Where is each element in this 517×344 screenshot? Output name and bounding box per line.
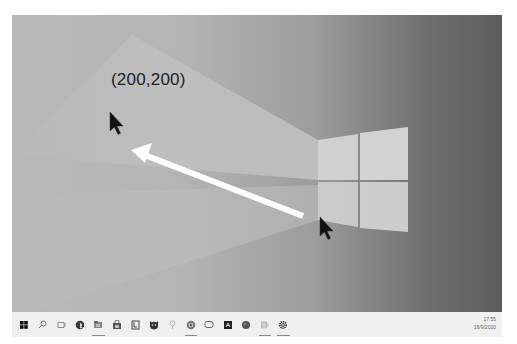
start-button[interactable] — [16, 314, 33, 336]
browser-icon — [186, 320, 196, 330]
search-button[interactable] — [35, 314, 52, 336]
chrome-button[interactable] — [183, 314, 200, 336]
gear-icon — [278, 320, 288, 330]
chat-icon — [204, 320, 214, 329]
file-explorer-button[interactable] — [90, 314, 107, 336]
chat-app-button[interactable] — [201, 314, 218, 336]
notebook-icon — [131, 320, 140, 330]
task-view-icon — [57, 321, 66, 329]
target-coordinate-label: (200,200) — [111, 70, 186, 90]
speaker-icon — [260, 320, 270, 330]
pdf-icon — [223, 320, 233, 330]
acrobat-button[interactable] — [220, 314, 237, 336]
task-view-button[interactable] — [53, 314, 70, 336]
edge-icon — [75, 320, 85, 330]
windows-icon — [20, 321, 28, 329]
shield-app-button[interactable] — [146, 314, 163, 336]
circle-app-icon — [241, 320, 251, 330]
windows-logo — [318, 127, 408, 232]
shield-icon — [149, 320, 159, 330]
system-clock[interactable]: 17:55 16/9/2020 — [474, 315, 496, 331]
taskbar: 17:55 16/9/2020 — [12, 312, 502, 337]
tips-button[interactable] — [164, 314, 181, 336]
store-button[interactable] — [109, 314, 126, 336]
screenshot-frame: 17:55 16/9/2020 — [12, 15, 502, 337]
desktop[interactable] — [12, 15, 502, 312]
media-app-button[interactable] — [238, 314, 255, 336]
edge-button[interactable] — [72, 314, 89, 336]
clock-time: 17:55 — [474, 315, 496, 323]
notes-app-button[interactable] — [127, 314, 144, 336]
volume-app-button[interactable] — [257, 314, 274, 336]
folder-icon — [93, 320, 103, 329]
wallpaper-light-beams — [12, 15, 502, 312]
settings-button[interactable] — [275, 314, 292, 336]
store-icon — [112, 320, 122, 330]
clock-date: 16/9/2020 — [474, 323, 496, 331]
lightbulb-icon — [168, 320, 177, 330]
search-icon — [38, 320, 47, 329]
